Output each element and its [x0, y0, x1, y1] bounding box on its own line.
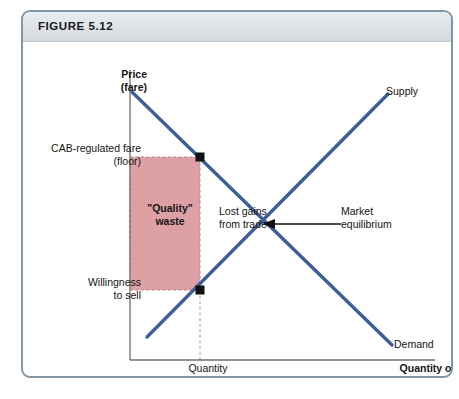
cab-regulated-fare-label: CAB-regulated fare (floor) [25, 142, 141, 167]
figure-title: FIGURE 5.12 [38, 20, 113, 32]
lost-gains-from-trade-label: Lost gains from trade [219, 205, 289, 230]
demand-at-floor-marker [196, 153, 205, 162]
x-axis-label-quantity: Quantity of flights [373, 362, 453, 378]
figure-frame: FIGURE 5.12 [21, 10, 453, 378]
willingness-to-sell-label: Willingness to sell [43, 276, 141, 301]
supply-at-floor-marker [196, 286, 205, 295]
quantity-demanded-label: Quantity demanded [166, 362, 250, 378]
supply-demand-chart: Price (fare) CAB-regulated fare (floor) … [23, 42, 451, 376]
quality-waste-label: "Quality" waste [129, 202, 211, 227]
y-axis-label-price: Price (fare) [95, 68, 147, 93]
supply-curve-label: Supply [386, 85, 446, 98]
figure-page: FIGURE 5.12 [0, 0, 459, 399]
demand-curve-label: Demand [394, 338, 453, 351]
market-equilibrium-label: Market equilibrium [341, 205, 421, 230]
